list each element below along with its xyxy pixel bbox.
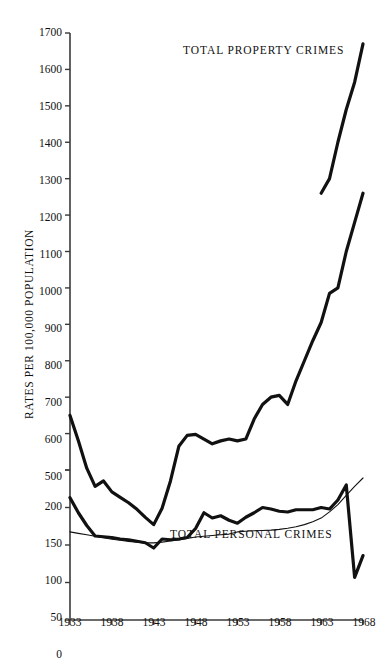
y-tick-label-100: 100	[22, 574, 62, 586]
x-tick-label-1953: 1953	[214, 616, 262, 628]
y-tick-label-900: 900	[22, 322, 62, 334]
x-tick-label-1963: 1963	[298, 616, 346, 628]
y-tick-label-1200: 1200	[22, 211, 62, 223]
y-tick-label-0: 0	[22, 648, 62, 658]
y-tick-label-500: 500	[22, 470, 62, 482]
x-tick-label-1948: 1948	[172, 616, 220, 628]
y-tick-label-150: 150	[22, 537, 62, 549]
chart-figure: RATES PER 100,000 POPULATION 1700 1600 1…	[0, 0, 385, 658]
y-tick-label-1400: 1400	[22, 137, 62, 149]
y-tick-label-600: 600	[22, 433, 62, 445]
y-tick-label-1700: 1700	[22, 26, 62, 38]
x-tick-label-1958: 1958	[256, 616, 304, 628]
x-tick-label-1938: 1938	[88, 616, 136, 628]
y-tick-label-1600: 1600	[22, 63, 62, 75]
series-label-total-property-crimes: TOTAL PROPERTY CRIMES	[183, 44, 344, 56]
y-tick-label-1000: 1000	[22, 285, 62, 297]
y-tick-label-700: 700	[22, 396, 62, 408]
x-tick-label-1943: 1943	[130, 616, 178, 628]
x-tick-label-1933: 1933	[46, 616, 94, 628]
chart-series-lines	[70, 44, 363, 578]
y-tick-label-1100: 1100	[22, 248, 62, 260]
y-tick-label-1500: 1500	[22, 100, 62, 112]
series-label-total-personal-crimes: TOTAL PERSONAL CRIMES	[170, 528, 333, 540]
x-tick-label-1968: 1968	[340, 616, 385, 628]
y-tick-label-200: 200	[22, 500, 62, 512]
y-tick-label-800: 800	[22, 359, 62, 371]
y-tick-label-1300: 1300	[22, 174, 62, 186]
